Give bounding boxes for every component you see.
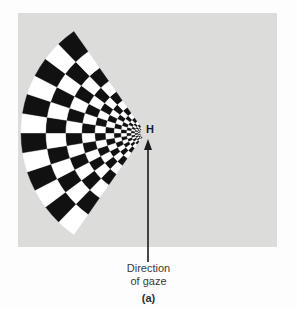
caption-line-2: of gaze (0, 275, 297, 288)
checker-tile (121, 133, 127, 137)
checker-tile (105, 133, 114, 139)
caption-line-1: Direction (0, 262, 297, 275)
panel-letter-label: (a) (0, 292, 297, 304)
fixation-point-label: H (146, 124, 154, 135)
checker-tile (114, 133, 121, 138)
gaze-direction-arrow (144, 139, 152, 262)
checker-tile (126, 133, 131, 136)
arrow-head (144, 139, 152, 150)
gaze-caption: Direction of gaze (0, 262, 297, 288)
figure-container: H Direction of gaze (a) (0, 0, 297, 309)
checker-tiles (21, 31, 142, 234)
checker-tile (135, 133, 138, 135)
checker-tile (131, 133, 135, 135)
